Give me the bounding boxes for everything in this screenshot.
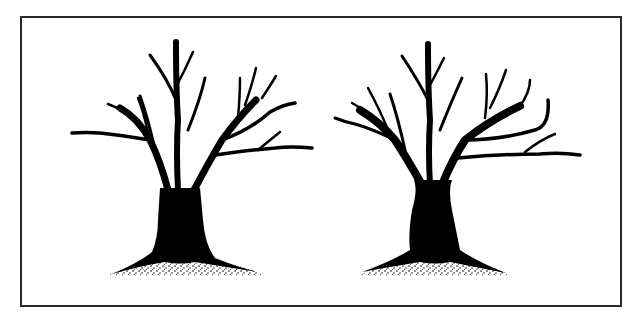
figure-illustration [0, 0, 639, 322]
figure-caption [18, 314, 618, 322]
right-tree-icon [335, 44, 580, 275]
left-tree-icon [72, 42, 312, 275]
